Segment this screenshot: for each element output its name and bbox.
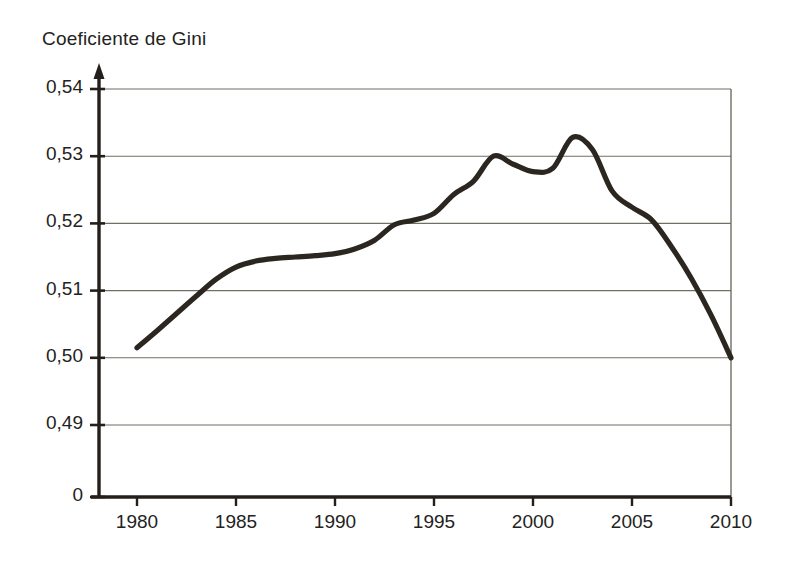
y-tick-label: 0,51 bbox=[46, 278, 83, 300]
axis-group bbox=[91, 63, 731, 497]
plot-area bbox=[0, 0, 791, 572]
chart-figure: Coeficiente de Gini 00,490,500,510,520,5… bbox=[0, 0, 791, 572]
x-tick-label: 1990 bbox=[300, 511, 370, 533]
y-tick-label: 0,52 bbox=[46, 210, 83, 232]
x-tick-label: 2005 bbox=[597, 511, 667, 533]
x-tick-label: 1985 bbox=[201, 511, 271, 533]
x-tick-label: 1980 bbox=[102, 511, 172, 533]
data-line-0 bbox=[137, 137, 731, 358]
tick-mark-group bbox=[90, 89, 731, 506]
y-axis-arrow-icon bbox=[94, 63, 105, 79]
y-tick-label: 0,54 bbox=[46, 76, 83, 98]
y-tick-label: 0,53 bbox=[46, 143, 83, 165]
data-series-group bbox=[137, 137, 731, 358]
y-tick-label: 0 bbox=[72, 484, 83, 506]
y-tick-label: 0,50 bbox=[46, 345, 83, 367]
x-tick-label: 1995 bbox=[399, 511, 469, 533]
gridline-group bbox=[99, 89, 731, 425]
x-tick-label: 2010 bbox=[696, 511, 766, 533]
x-tick-label: 2000 bbox=[498, 511, 568, 533]
y-tick-label: 0,49 bbox=[46, 412, 83, 434]
